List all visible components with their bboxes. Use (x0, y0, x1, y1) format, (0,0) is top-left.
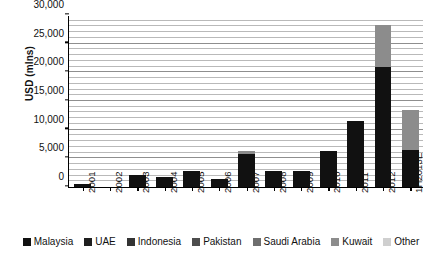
legend-item-label: Indonesia (138, 236, 181, 247)
x-axis-tick-mark (83, 187, 84, 191)
y-axis-tick-mark (65, 13, 69, 14)
x-axis-tick-label: 2003 (140, 171, 151, 193)
x-axis-tick-label: 2001 (86, 171, 97, 193)
legend-item[interactable]: Pakistan (192, 236, 241, 247)
x-axis-tick-mark (301, 187, 302, 191)
legend-item-label: Malaysia (34, 236, 73, 247)
legend-swatch-icon (253, 238, 261, 246)
x-axis-tick-label: 2008 (277, 171, 288, 193)
legend-swatch-icon (23, 238, 31, 246)
y-axis-tick-mark (65, 70, 69, 71)
x-axis-tick-label: 2007 (250, 171, 261, 193)
x-axis-tick-mark (219, 187, 220, 191)
x-axis-tick-label: 2005 (195, 171, 206, 193)
x-axis-tick-label: 2012 (386, 171, 397, 193)
x-axis-tick-mark (274, 187, 275, 191)
legend-item[interactable]: Malaysia (23, 236, 73, 247)
y-axis-tick-label: 0 (58, 171, 64, 182)
x-axis-tick-mark (110, 187, 111, 191)
legend-item[interactable]: Indonesia (127, 236, 181, 247)
bar-segment[interactable] (402, 110, 419, 150)
legend-item[interactable]: Other (383, 236, 419, 247)
x-axis-tick-mark (247, 187, 248, 191)
y-axis-tick-mark (65, 156, 69, 157)
legend-item-label: Saudi Arabia (264, 236, 321, 247)
x-axis-tick-label: 1H2013E (413, 153, 424, 193)
chart-legend: MalaysiaUAEIndonesiaPakistanSaudi Arabia… (0, 236, 442, 247)
legend-item-label: Pakistan (203, 236, 241, 247)
bar-segment[interactable] (375, 25, 392, 67)
legend-item[interactable]: Kuwait (331, 236, 372, 247)
bar-column[interactable] (375, 25, 392, 187)
y-axis-tick-mark (65, 185, 69, 186)
x-axis-tick-label: 2006 (222, 171, 233, 193)
plot-area: 05,00010,00015,00020,00025,00030,000 (68, 16, 423, 188)
x-axis-tick-mark (356, 187, 357, 191)
x-axis-tick-label: 2011 (359, 172, 370, 193)
legend-swatch-icon (192, 238, 200, 246)
y-axis-tick-label: 25,000 (33, 27, 64, 38)
x-axis-tick-mark (383, 187, 384, 191)
x-axis-tick-label: 2002 (113, 171, 124, 193)
y-axis-tick-mark (65, 42, 69, 43)
x-axis-tick-label: 2004 (168, 171, 179, 193)
x-axis-tick-label: 2010 (331, 171, 342, 193)
y-axis-tick-label: 5,000 (39, 142, 64, 153)
legend-item-label: Other (394, 236, 419, 247)
legend-swatch-icon (331, 238, 339, 246)
x-axis-tick-mark (165, 187, 166, 191)
y-axis-tick-label: 10,000 (33, 113, 64, 124)
y-axis-tick-label: 15,000 (33, 85, 64, 96)
bar-series-group (69, 16, 423, 187)
x-axis-tick-mark (328, 187, 329, 191)
y-axis-tick-mark (65, 128, 69, 129)
x-axis-tick-mark (410, 187, 411, 191)
bar-chart: USD (mlns) 05,00010,00015,00020,00025,00… (0, 0, 442, 263)
y-axis-tick-label: 30,000 (33, 0, 64, 10)
y-axis-tick-mark (65, 99, 69, 100)
x-axis-tick-mark (192, 187, 193, 191)
legend-item-label: Kuwait (342, 236, 372, 247)
bar-segment[interactable] (375, 67, 392, 187)
legend-item-label: UAE (95, 236, 116, 247)
legend-item[interactable]: Saudi Arabia (253, 236, 321, 247)
legend-swatch-icon (84, 238, 92, 246)
x-axis-tick-label: 2009 (304, 171, 315, 193)
legend-swatch-icon (383, 238, 391, 246)
legend-swatch-icon (127, 238, 135, 246)
legend-item[interactable]: UAE (84, 236, 116, 247)
y-axis-tick-label: 20,000 (33, 56, 64, 67)
x-axis-tick-mark (137, 187, 138, 191)
